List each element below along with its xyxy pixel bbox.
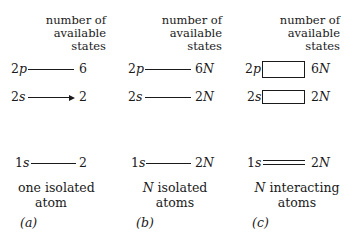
state-count-2s-c: 2N [311, 89, 330, 104]
count-var: N [319, 61, 330, 76]
orbital-number: 1 [15, 155, 23, 170]
caption-line-2: atom [18, 195, 84, 210]
orbital-label-2p-c: 2p [245, 61, 261, 76]
orbital-number: 2 [245, 61, 253, 76]
orbital-letter: p [253, 61, 261, 76]
orbital-label-1s-c: 1s [247, 155, 261, 170]
orbital-number: 1 [131, 155, 139, 170]
orbital-label-1s-b: 1s [131, 155, 145, 170]
energy-level-line-1s-a [31, 163, 76, 164]
orbital-label-2p-a: 2p [11, 61, 27, 76]
caption-line-1: one isolated [18, 180, 84, 195]
orbital-number: 2 [128, 61, 136, 76]
energy-level-line-2s-a [28, 97, 70, 98]
count-number: 2 [311, 155, 319, 170]
state-count-2p-c: 6N [311, 61, 330, 76]
energy-band-2s-c [262, 90, 305, 104]
count-number: 2 [311, 89, 319, 104]
orbital-letter: s [19, 89, 25, 104]
caption-var: N [255, 180, 266, 195]
state-count-2p-b: 6N [195, 61, 214, 76]
state-count-2s-a: 2 [79, 89, 87, 104]
count-var: N [319, 155, 330, 170]
energy-level-line-2p-a [28, 69, 74, 70]
states-header-c: number of available states [276, 14, 340, 53]
orbital-number: 2 [11, 61, 19, 76]
orbital-letter: s [255, 155, 261, 170]
orbital-number: 2 [247, 89, 255, 104]
caption-line-1: N interacting [252, 180, 342, 195]
orbital-label-2s-c: 2s [247, 89, 261, 104]
count-var: N [203, 155, 214, 170]
count-var: N [203, 61, 214, 76]
caption-c: N interacting atoms [252, 180, 342, 210]
state-count-2p-a: 6 [79, 61, 87, 76]
panel-label-a: (a) [20, 215, 37, 230]
orbital-letter: s [136, 89, 142, 104]
caption-text: one isolated [18, 180, 95, 195]
caption-line-2: atoms [252, 195, 342, 210]
count-number: 2 [195, 155, 203, 170]
header-line-3: states [276, 40, 340, 53]
caption-var: N [143, 180, 154, 195]
state-count-1s-b: 2N [195, 155, 214, 170]
count-var: N [203, 89, 214, 104]
panel-label-c: (c) [252, 215, 269, 230]
orbital-label-1s-a: 1s [15, 155, 29, 170]
caption-text: interacting [265, 180, 339, 195]
header-line-3: states [44, 40, 106, 53]
energy-level-line-2s-b [145, 97, 191, 98]
caption-a: one isolated atom [18, 180, 84, 210]
caption-b: N isolated atoms [140, 180, 210, 210]
caption-line-1: N isolated [140, 180, 210, 195]
orbital-label-2p-b: 2p [128, 61, 144, 76]
orbital-letter: p [19, 61, 27, 76]
orbital-letter: s [255, 89, 261, 104]
header-line-3: states [160, 40, 222, 53]
orbital-letter: p [136, 61, 144, 76]
orbital-number: 2 [128, 89, 136, 104]
energy-level-line-1s-b [146, 163, 191, 164]
energy-level-line-2p-b [145, 69, 191, 70]
orbital-label-2s-b: 2s [128, 89, 142, 104]
state-count-2s-b: 2N [195, 89, 214, 104]
state-count-1s-c: 2N [311, 155, 330, 170]
caption-line-2: atoms [140, 195, 210, 210]
count-number: 6 [311, 61, 319, 76]
count-number: 2 [195, 89, 203, 104]
energy-band-1s-c [263, 160, 305, 165]
orbital-letter: s [23, 155, 29, 170]
count-number: 6 [195, 61, 203, 76]
caption-text: isolated [154, 180, 208, 195]
state-count-1s-a: 2 [79, 155, 87, 170]
states-header-a: number of available states [44, 14, 106, 53]
states-header-b: number of available states [160, 14, 222, 53]
orbital-letter: s [139, 155, 145, 170]
orbital-number: 1 [247, 155, 255, 170]
arrowhead-icon [69, 95, 75, 101]
orbital-label-2s-a: 2s [11, 89, 25, 104]
orbital-number: 2 [11, 89, 19, 104]
count-var: N [319, 89, 330, 104]
energy-band-2p-c [262, 61, 305, 78]
panel-label-b: (b) [136, 215, 154, 230]
